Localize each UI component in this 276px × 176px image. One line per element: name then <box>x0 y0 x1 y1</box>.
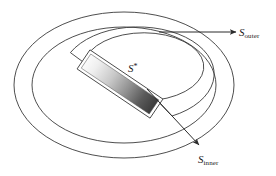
s-inner-arrow <box>147 89 199 145</box>
gradient-bar-fill <box>81 54 158 114</box>
diagram-canvas <box>0 0 276 176</box>
label-s-star-superscript: * <box>134 62 138 71</box>
label-s-outer: Souter <box>239 23 259 40</box>
label-s-inner-subscript: inner <box>204 159 219 167</box>
gradient-bar-group <box>77 50 163 118</box>
figure-container: Souter Sinner S* <box>0 0 276 176</box>
label-s-star: S* <box>128 59 138 75</box>
label-s-inner: Sinner <box>198 150 218 167</box>
label-s-outer-subscript: outer <box>245 32 260 40</box>
